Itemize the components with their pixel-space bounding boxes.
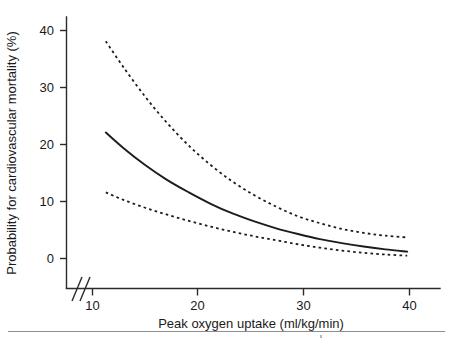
data-curves (106, 41, 407, 255)
curve-upper-confidence-limit (106, 41, 407, 237)
figure-root: 40 30 20 10 0 Probability for cardiovasc… (0, 0, 453, 345)
x-tick-label-20: 20 (190, 298, 204, 313)
footer-divider (8, 332, 445, 339)
footer-speck-mark (320, 335, 322, 338)
y-axis-title: Probability for cardiovascular mortality… (4, 31, 19, 274)
x-tick-label-30: 30 (296, 298, 310, 313)
y-tick-label-40: 40 (40, 23, 54, 38)
x-axis-ticks (93, 289, 410, 296)
y-tick-label-20: 20 (40, 137, 54, 152)
x-axis-group: 10 20 30 40 Peak oxygen uptake (ml/kg/mi… (67, 277, 441, 331)
y-axis-tick-labels: 40 30 20 10 0 (40, 23, 54, 266)
y-axis-ticks (60, 31, 67, 259)
y-tick-label-10: 10 (40, 194, 54, 209)
y-tick-label-30: 30 (40, 80, 54, 95)
cardiovascular-mortality-chart: 40 30 20 10 0 Probability for cardiovasc… (0, 0, 453, 345)
y-axis-group: 40 30 20 10 0 Probability for cardiovasc… (4, 17, 67, 288)
x-tick-label-40: 40 (402, 298, 416, 313)
curve-predicted-probability (106, 133, 407, 252)
x-tick-label-10: 10 (85, 298, 99, 313)
x-axis-tick-labels: 10 20 30 40 (85, 298, 416, 313)
y-tick-label-0: 0 (47, 251, 54, 266)
x-axis-title: Peak oxygen uptake (ml/kg/min) (158, 316, 344, 331)
